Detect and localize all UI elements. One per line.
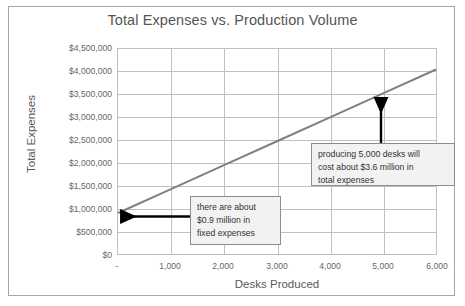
annotation-line: producing 5,000 desks will [318, 148, 449, 161]
x-tick-label: 1,000 [140, 261, 200, 271]
chart-figure: Total Expenses vs. Production Volume Tot… [0, 0, 465, 306]
x-tick-label: 3,000 [247, 261, 307, 271]
y-tick-label: $2,000,000 [44, 158, 112, 168]
x-axis-ticks: - 1,000 2,000 3,000 4,000 5,000 6,000 [117, 261, 437, 275]
y-tick-label: $1,500,000 [44, 181, 112, 191]
annotation-line: there are about [197, 201, 275, 214]
y-tick-label: $1,000,000 [44, 204, 112, 214]
y-tick-label: $4,000,000 [44, 66, 112, 76]
y-axis-title: Total Expenses [25, 74, 37, 194]
y-tick-label: $0 [44, 250, 112, 260]
y-tick-label: $3,000,000 [44, 112, 112, 122]
annotation-line: cost about $3.6 million in [318, 161, 449, 174]
annotation-line: total expenses [318, 174, 449, 187]
y-axis-ticks: $4,500,000 $4,000,000 $3,500,000 $3,000,… [44, 48, 112, 255]
x-tick-label: 4,000 [300, 261, 360, 271]
x-tick-label-origin: - [87, 261, 147, 271]
x-tick-label: 6,000 [407, 261, 465, 271]
y-tick-label: $500,000 [44, 227, 112, 237]
x-axis-title: Desks Produced [117, 278, 437, 290]
y-tick-label: $3,500,000 [44, 89, 112, 99]
annotation-line: fixed expenses [197, 227, 275, 240]
annotation-line: $0.9 million in [197, 214, 275, 227]
x-tick-label: 2,000 [193, 261, 253, 271]
y-tick-label: $4,500,000 [44, 43, 112, 53]
annotation-cost-at-5000: producing 5,000 desks will cost about $3… [311, 143, 455, 186]
annotation-fixed-expenses: there are about $0.9 million in fixed ex… [190, 196, 281, 245]
x-tick-label: 5,000 [353, 261, 413, 271]
chart-title: Total Expenses vs. Production Volume [30, 12, 435, 28]
y-tick-label: $2,500,000 [44, 135, 112, 145]
